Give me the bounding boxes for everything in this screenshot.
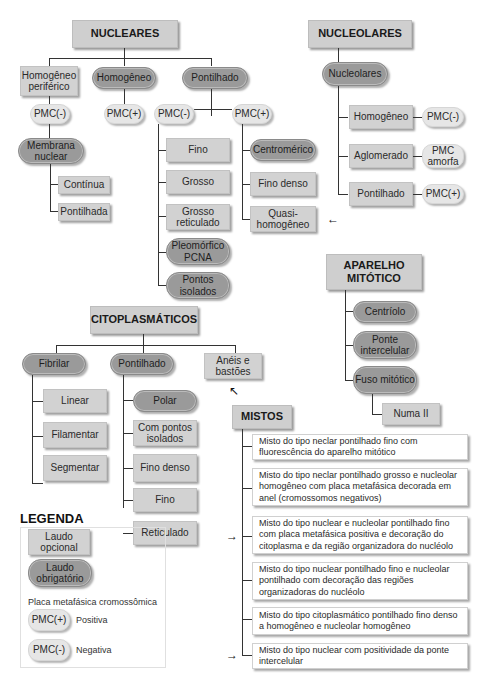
connector-line — [56, 345, 236, 346]
connector-line — [372, 394, 373, 414]
node-fibrilar: Fibrilar — [22, 353, 86, 375]
node-homogeneo: Homogêneo — [92, 67, 156, 89]
node-pontilhado-nuclear: Pontilhado — [182, 67, 248, 89]
pmc-pos-nucleolar: PMC(+) — [422, 184, 464, 204]
node-fino-citoplasmatico: Fino — [133, 488, 197, 512]
connector-line — [242, 536, 252, 537]
node-membrana-nuclear: Membrana nuclear — [18, 138, 84, 164]
connector-line — [211, 58, 212, 66]
connector-line — [56, 345, 57, 353]
connector-line — [242, 488, 252, 489]
connector-line — [158, 285, 166, 286]
citoplasmaticos-header: CITOPLASMÁTICOS — [90, 306, 198, 334]
pmc-pos-pontilhado: PMC(+) — [232, 104, 272, 124]
arrow-up-left-icon: ↖ — [229, 385, 239, 397]
connector-line — [49, 96, 50, 104]
legend-positiva-label: Positiva — [76, 615, 108, 625]
connector-line — [49, 124, 50, 138]
connector-line — [124, 58, 125, 66]
node-polar: Polar — [133, 390, 197, 412]
connector-line — [49, 58, 212, 59]
node-nucleolar-aglomerado: Aglomerado — [349, 144, 413, 168]
connector-line — [242, 184, 250, 185]
pmc-pos-homogeneo: PMC(+) — [104, 104, 144, 124]
node-nucleolar-homogeneo: Homogêneo — [349, 105, 413, 129]
connector-line — [124, 48, 125, 58]
legend-negativa-label: Negativa — [76, 645, 112, 655]
node-linear: Linear — [43, 389, 107, 413]
arrow-right-icon: → — [226, 530, 238, 542]
connector-line — [158, 252, 166, 253]
node-numa-ii: Numa II — [382, 403, 440, 425]
legend-pmc-neg: PMC(-) — [28, 639, 70, 661]
connector-line — [123, 468, 133, 469]
legend-laudo-opcional: Laudo opcional — [28, 529, 90, 555]
connector-line — [372, 414, 382, 415]
node-pontilhada: Pontilhada — [58, 203, 110, 221]
misto-item-6: Misto do tipo nuclear com positividade d… — [252, 643, 468, 669]
node-fuso-mitotico: Fuso mitótico — [353, 366, 417, 394]
connector-line — [50, 184, 58, 185]
connector-line — [345, 380, 353, 381]
node-fino-denso: Fino denso — [250, 172, 316, 196]
connector-line — [242, 655, 252, 656]
connector-line — [338, 86, 339, 195]
connector-line — [143, 345, 144, 353]
connector-line — [242, 619, 252, 620]
node-grosso: Grosso — [166, 170, 230, 194]
node-grosso-reticulado: Grosso reticulado — [166, 204, 230, 230]
connector-line — [50, 211, 58, 212]
pmc-neg-nucleolar: PMC(-) — [422, 107, 464, 127]
node-com-pontos-isolados: Com pontos isolados — [133, 420, 197, 446]
connector-line — [158, 124, 159, 285]
connector-line — [242, 446, 252, 447]
node-centriolo: Centríolo — [353, 301, 417, 323]
node-pontilhado-citoplasmatico: Pontilhado — [110, 353, 174, 375]
pmc-amorfa-nucleolar: PMC amorfa — [422, 144, 464, 168]
connector-line — [413, 194, 422, 195]
node-fino-denso-citoplasmatico: Fino denso — [133, 454, 197, 482]
misto-item-3: Misto do tipo nuclear e nucleolar pontil… — [252, 516, 468, 554]
connector-line — [123, 375, 124, 508]
connector-line — [242, 219, 250, 220]
connector-line — [158, 150, 166, 151]
node-filamentar: Filamentar — [43, 422, 107, 448]
node-continua: Contínua — [58, 176, 110, 194]
connector-line — [143, 334, 144, 345]
legend-title: LEGENDA — [20, 511, 84, 526]
arrow-left-icon: ← — [327, 213, 339, 225]
node-ponte-intercelular: Ponte intercelular — [353, 331, 417, 359]
connector-line — [338, 48, 339, 62]
connector-line — [242, 429, 243, 655]
node-aneis-bastoes: Anéis e bastões — [204, 353, 262, 379]
connector-line — [123, 400, 133, 401]
legend-pmc-pos: PMC(+) — [28, 609, 70, 631]
nucleolares-header: NUCLEOLARES — [308, 20, 412, 48]
node-homogeneo-periferico: Homogêneo periférico — [20, 66, 78, 96]
connector-line — [158, 216, 166, 217]
connector-line — [338, 194, 348, 195]
misto-item-1: Misto do tipo neclar pontilhado fino com… — [252, 434, 468, 460]
connector-line — [211, 89, 212, 116]
connector-line — [32, 436, 43, 437]
misto-item-5: Misto do tipo citoplasmático pontilhado … — [252, 607, 468, 635]
connector-line — [123, 500, 133, 501]
connector-line — [50, 164, 51, 211]
connector-line — [345, 311, 353, 312]
connector-line — [194, 109, 232, 110]
node-centromerico: Centromérico — [250, 139, 316, 161]
node-quasi-homogeneo: Quasi-homogêneo — [250, 206, 316, 232]
arrow-right-icon: → — [226, 649, 238, 661]
node-nucleolar-pontilhado: Pontilhado — [349, 182, 413, 206]
connector-line — [32, 375, 33, 483]
connector-line — [123, 433, 133, 434]
node-fino: Fino — [166, 138, 230, 162]
connector-line — [124, 89, 125, 104]
connector-line — [49, 58, 50, 66]
misto-item-4: Misto do tipo nuclear pontilhado fino e … — [252, 562, 468, 600]
connector-line — [345, 345, 353, 346]
aparelho-mitotico-header: APARELHO MITÓTICO — [326, 254, 422, 290]
connector-line — [345, 290, 346, 380]
node-segmentar: Segmentar — [43, 455, 107, 481]
pmc-neg-periferico: PMC(-) — [30, 104, 70, 124]
